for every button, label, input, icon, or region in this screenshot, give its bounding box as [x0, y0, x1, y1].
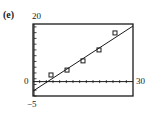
scatter-plot — [0, 0, 149, 119]
data-point-marker — [113, 31, 117, 35]
data-point-marker — [49, 73, 53, 77]
